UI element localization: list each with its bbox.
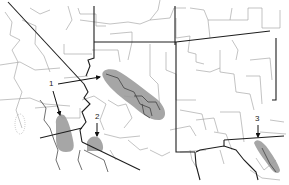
colorado-river-border bbox=[80, 84, 90, 142]
shaded-regions bbox=[56, 69, 280, 173]
area-label-1: 1 bbox=[49, 80, 53, 88]
rio-grande bbox=[195, 152, 200, 180]
area-label-3: 3 bbox=[255, 115, 259, 123]
tx-lower-border bbox=[224, 136, 284, 140]
island bbox=[15, 114, 25, 134]
map bbox=[0, 0, 289, 185]
nm-ok-tx-border bbox=[272, 38, 276, 100]
shaded-region-1a bbox=[102, 69, 165, 120]
shaded-region-3 bbox=[254, 140, 280, 173]
ca-nv-border bbox=[8, 2, 84, 84]
az-mexico-border bbox=[82, 142, 140, 170]
arrow-1b bbox=[53, 91, 60, 115]
nv-ut-border bbox=[86, 6, 94, 76]
az-nm-border bbox=[176, 42, 195, 152]
area-label-2: 2 bbox=[95, 113, 99, 121]
tx-mexico-border bbox=[196, 146, 258, 180]
